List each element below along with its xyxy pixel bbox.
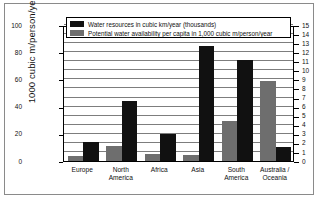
- left-axis-tick-label: 80: [0, 50, 22, 57]
- gridline: [64, 51, 293, 52]
- bar-water-availability: [145, 154, 161, 161]
- category-label-line2: America: [224, 174, 248, 181]
- left-axis-tick-label: 100: [0, 23, 22, 30]
- right-axis-tick-mark: [294, 162, 299, 163]
- gridline: [64, 69, 293, 70]
- bar-water-availability: [68, 156, 84, 161]
- category-label-line1: North: [113, 166, 129, 173]
- category-label: NorthAmerica: [102, 166, 141, 181]
- right-axis-tick-label: 9: [302, 77, 319, 84]
- left-axis-tick-label: 40: [0, 104, 22, 111]
- category-label-line2: America: [109, 174, 133, 181]
- chart-legend: Water resources in cubic km/year (thousa…: [66, 17, 291, 38]
- gridline: [64, 42, 293, 43]
- category-label: Australia /Oceania: [256, 166, 295, 181]
- right-axis-tick-label: 12: [302, 50, 319, 57]
- category-label-line2: Oceania: [262, 174, 287, 181]
- left-axis-tick-mark: [59, 162, 63, 163]
- gridline: [64, 60, 293, 61]
- right-axis-tick-mark: [294, 108, 299, 109]
- right-axis-tick-mark: [294, 26, 299, 27]
- category-label-line1: Europe: [72, 166, 93, 173]
- bar-water-resources: [160, 134, 176, 161]
- bar-water-availability: [183, 155, 199, 161]
- figure-frame: 1000 cubic m/person/year 100806040200 15…: [4, 3, 314, 195]
- bar-water-availability: [106, 146, 122, 161]
- right-axis-tick-label: 5: [302, 113, 319, 120]
- bar-water-resources: [83, 142, 99, 161]
- right-axis-tick-label: 10: [302, 68, 319, 75]
- right-axis-tick-label: 3: [302, 131, 319, 138]
- right-axis-tick-mark: [294, 53, 299, 54]
- legend-swatch-water-availability: [70, 30, 84, 37]
- gridline: [64, 133, 293, 134]
- gridline: [64, 87, 293, 88]
- y-axis-title: 1000 cubic m/person/year: [26, 0, 37, 118]
- bar-water-resources: [276, 147, 292, 161]
- gridline: [64, 115, 293, 116]
- left-axis-tick-label: 0: [0, 159, 22, 166]
- category-label-line1: Australia /: [260, 166, 289, 173]
- category-label-line1: Asia: [191, 166, 204, 173]
- right-axis-tick-label: 14: [302, 32, 319, 39]
- gridline: [64, 124, 293, 125]
- left-axis-tick-label: 20: [0, 131, 22, 138]
- right-axis-tick-label: 8: [302, 86, 319, 93]
- right-axis-tick-mark: [294, 126, 299, 127]
- legend-item: Potential water availability per capita …: [70, 29, 287, 37]
- right-axis-tick-label: 6: [302, 104, 319, 111]
- bar-water-availability: [222, 121, 238, 161]
- left-axis-tick-label: 60: [0, 77, 22, 84]
- bar-water-resources: [237, 60, 253, 161]
- right-axis-tick-mark: [294, 62, 299, 63]
- gridline: [64, 106, 293, 107]
- category-label-line1: Africa: [151, 166, 168, 173]
- category-label: SouthAmerica: [217, 166, 256, 181]
- right-axis-tick-mark: [294, 71, 299, 72]
- right-axis-tick-label: 13: [302, 41, 319, 48]
- right-axis-tick-mark: [294, 117, 299, 118]
- legend-swatch-water-resources: [70, 21, 84, 28]
- category-label: Asia: [179, 166, 218, 174]
- right-axis-tick-label: 11: [302, 59, 319, 66]
- bar-water-resources: [122, 101, 138, 161]
- gridline: [64, 78, 293, 79]
- right-axis-tick-label: 7: [302, 95, 319, 102]
- right-axis-tick-mark: [294, 153, 299, 154]
- category-label: Africa: [140, 166, 179, 174]
- category-label: Europe: [63, 166, 102, 174]
- gridline: [64, 97, 293, 98]
- bar-water-availability: [260, 81, 276, 161]
- right-axis-tick-mark: [294, 35, 299, 36]
- right-axis-tick-mark: [294, 99, 299, 100]
- plot-area: [63, 26, 294, 162]
- legend-item: Water resources in cubic km/year (thousa…: [70, 20, 287, 28]
- bar-water-resources: [199, 46, 215, 161]
- right-axis-tick-mark: [294, 89, 299, 90]
- right-axis-tick-label: 2: [302, 140, 319, 147]
- category-label-line1: South: [228, 166, 245, 173]
- right-axis-tick-mark: [294, 80, 299, 81]
- right-axis-tick-mark: [294, 135, 299, 136]
- legend-label-water-resources: Water resources in cubic km/year (thousa…: [88, 21, 216, 28]
- legend-label-water-availability: Potential water availability per capita …: [88, 30, 272, 37]
- right-axis-tick-label: 15: [302, 23, 319, 30]
- right-axis-tick-label: 1: [302, 150, 319, 157]
- right-axis-tick-mark: [294, 144, 299, 145]
- right-axis-tick-mark: [294, 44, 299, 45]
- right-axis-tick-label: 0: [302, 159, 319, 166]
- right-axis-tick-label: 4: [302, 122, 319, 129]
